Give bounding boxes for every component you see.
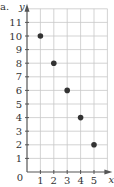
y-tick-label: 5 [16,99,22,110]
scatter-chart: a. 1234567891011123450xy [0,0,114,187]
y-tick-label: 11 [9,17,22,28]
y-tick-label: 3 [16,126,22,137]
x-tick-label: 4 [77,175,83,186]
x-tick-label: 5 [91,175,97,186]
x-tick-label: 1 [37,175,43,186]
part-label: a. [0,1,9,12]
data-point [64,88,70,94]
y-tick-label: 9 [16,44,22,55]
y-axis-arrow-icon [25,4,30,12]
data-point [78,115,84,121]
y-tick-label: 7 [16,71,22,82]
data-point [38,33,44,39]
y-tick-label: 4 [16,112,22,123]
y-tick-label: 6 [16,85,22,96]
y-tick-label: 1 [16,153,22,164]
x-tick-label: 2 [51,175,57,186]
y-axis-label: y [18,1,25,12]
x-tick-label: 3 [64,175,70,186]
data-point [91,142,97,148]
origin-label: 0 [17,172,23,183]
y-tick-label: 10 [9,31,22,42]
y-tick-label: 8 [16,58,22,69]
data-point [51,60,57,66]
y-tick-label: 2 [16,139,22,150]
x-axis-label: x [108,174,114,185]
